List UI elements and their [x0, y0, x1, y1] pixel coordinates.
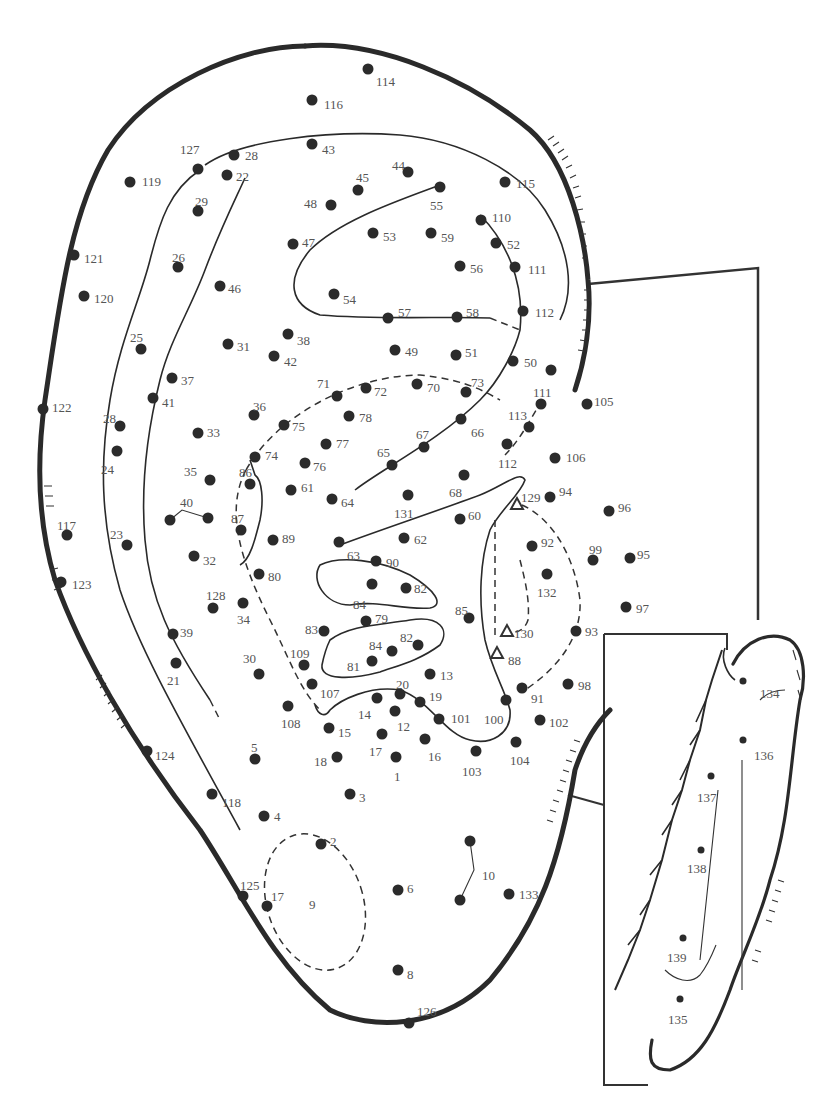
- acupoint-label: 95: [637, 547, 650, 562]
- acupoint-dot: [79, 291, 90, 302]
- acupoint-dot: [413, 640, 424, 651]
- acupoint-dot: [502, 439, 513, 450]
- acupoint-dot: [229, 150, 240, 161]
- acupoint-label: 35: [184, 464, 197, 479]
- acupoint-dot: [148, 393, 159, 404]
- acupoint-label: 117: [57, 518, 77, 533]
- acupoint-label: 132: [537, 585, 557, 600]
- acupoint-label: 84: [353, 597, 367, 612]
- acupoint-dot: [283, 329, 294, 340]
- acupoint-label: 76: [313, 459, 327, 474]
- acupoint-dot: [205, 475, 216, 486]
- acupoint-dot: [353, 185, 364, 196]
- acupoint-label: 19: [429, 689, 442, 704]
- acupoint-label: 33: [207, 425, 220, 440]
- acupoint-label: 6: [407, 881, 414, 896]
- acupoint-label: 74: [265, 448, 279, 463]
- acupoint-dot: [491, 238, 502, 249]
- acupoint-label: 103: [462, 764, 482, 779]
- acupoint-label: 64: [341, 495, 355, 510]
- acupoint-label: 42: [284, 354, 297, 369]
- acupoint-label: 98: [578, 678, 591, 693]
- acupoint-label: 46: [228, 281, 242, 296]
- acupoint-label: 88: [508, 653, 521, 668]
- acupoint-label: 60: [468, 508, 481, 523]
- acupoint-label: 99: [589, 542, 602, 557]
- acupoint-label: 10: [482, 868, 495, 883]
- acupoint-dot: [115, 421, 126, 432]
- acupoint-dot: [250, 754, 261, 765]
- acupoint-label: 45: [356, 170, 369, 185]
- acupoint-label: 106: [566, 450, 586, 465]
- acupoint-label: 115: [516, 176, 535, 191]
- acupoint-label: 97: [636, 601, 650, 616]
- acupoint-dot: [299, 660, 310, 671]
- acupoint-dot: [419, 442, 430, 453]
- acupoint-dot: [254, 569, 265, 580]
- acupoint-dot: [38, 404, 49, 415]
- inset-acupoint-dot: [677, 996, 684, 1003]
- callout-frame: [568, 268, 758, 1085]
- acupoint-dot: [535, 715, 546, 726]
- acupoint-label: 126: [417, 1004, 437, 1019]
- acupoint-label: 77: [336, 436, 350, 451]
- acupoint-label: 136: [754, 748, 774, 763]
- acupoint-label: 137: [697, 790, 717, 805]
- acupoint-dot: [288, 239, 299, 250]
- acupoint-dot: [321, 439, 332, 450]
- acupoint-label: 23: [110, 527, 123, 542]
- acupoint-dot: [383, 313, 394, 324]
- acupoint-label: 113: [508, 408, 527, 423]
- acupoint-markers: [38, 64, 747, 1029]
- acupoint-dot: [367, 579, 378, 590]
- acupoint-dot: [223, 339, 234, 350]
- acupoint-dot: [334, 537, 345, 548]
- acupoint-label: 93: [585, 624, 598, 639]
- acupoint-label: 123: [72, 577, 92, 592]
- acupoint-dot: [501, 695, 512, 706]
- acupoint-label: 17: [369, 744, 383, 759]
- acupoint-label: 4: [274, 809, 281, 824]
- acupoint-dot: [412, 379, 423, 390]
- acupoint-label: 122: [52, 400, 72, 415]
- acupoint-label: 24: [101, 462, 115, 477]
- acupoint-label: 131: [394, 506, 414, 521]
- acupoint-dot: [391, 752, 402, 763]
- acupoint-label: 8: [407, 967, 414, 982]
- acupoint-dot: [254, 669, 265, 680]
- acupoint-label: 51: [465, 345, 478, 360]
- acupoint-dot: [455, 261, 466, 272]
- acupoint-dot: [238, 598, 249, 609]
- acupoint-label: 116: [324, 97, 344, 112]
- acupoint-label: 109: [290, 646, 310, 661]
- acupoint-label: 86: [239, 465, 253, 480]
- acupoint-label: 89: [282, 531, 295, 546]
- acupoint-dot: [455, 514, 466, 525]
- acupoint-dot: [415, 697, 426, 708]
- acupoint-label: 55: [430, 198, 443, 213]
- acupoint-dot: [571, 626, 582, 637]
- acupoint-label: 112: [535, 305, 554, 320]
- acupoint-dot: [426, 228, 437, 239]
- acupoint-label: 26: [172, 250, 186, 265]
- acupoint-label: 138: [687, 861, 707, 876]
- acupoint-dot: [452, 312, 463, 323]
- acupoint-label: 67: [416, 427, 430, 442]
- acupoint-dot: [425, 669, 436, 680]
- acupoint-dot: [471, 746, 482, 757]
- acupoint-dot: [193, 428, 204, 439]
- acupoint-label: 49: [405, 344, 418, 359]
- acupoint-dot: [390, 345, 401, 356]
- acupoint-label: 56: [470, 261, 484, 276]
- acupoint-dot: [455, 895, 466, 906]
- acupoint-dot: [387, 646, 398, 657]
- acupoint-dot: [536, 399, 547, 410]
- acupoint-dot: [524, 422, 535, 433]
- acupoint-label: 20: [396, 677, 409, 692]
- acupoint-dot: [136, 344, 147, 355]
- acupoint-dot: [332, 391, 343, 402]
- acupoint-dot: [399, 533, 410, 544]
- acupoint-dot: [193, 164, 204, 175]
- inset-acupoint-dot: [680, 935, 687, 942]
- acupoint-dot: [456, 414, 467, 425]
